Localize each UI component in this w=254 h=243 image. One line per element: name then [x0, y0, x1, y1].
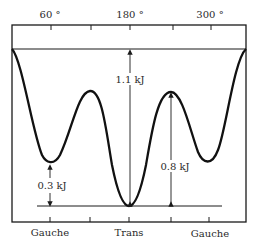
top-tick-label-60: 60 ° [40, 9, 61, 20]
torsional-energy-chart: 60 ° 180 ° 300 ° 1.1 kJ 0.3 kJ 0.8 kJ Ga… [0, 0, 254, 243]
annotation-0-3-kj: 0.3 kJ [37, 180, 66, 191]
top-tick-label-180: 180 ° [116, 9, 143, 20]
plot-frame [12, 25, 246, 222]
bottom-label-gauche-left: Gauche [31, 227, 69, 238]
annotation-0-8-kj: 0.8 kJ [160, 161, 189, 172]
annotation-1-1-kj: 1.1 kJ [115, 74, 144, 85]
bottom-label-gauche-right: Gauche [191, 228, 229, 239]
top-tick-label-300: 300 ° [196, 9, 223, 20]
top-axis-ticks [51, 25, 211, 30]
bottom-label-trans: Trans [115, 227, 144, 238]
bottom-axis-ticks [50, 217, 209, 222]
